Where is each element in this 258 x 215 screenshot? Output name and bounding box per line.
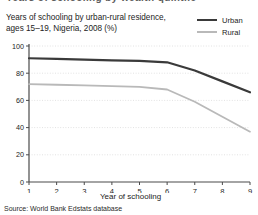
chart-title: Years of schooling by urban-rural reside… (6, 12, 176, 34)
x-axis-title: Year of schooling (100, 192, 161, 201)
series-line-rural (29, 84, 250, 132)
y-axis-tick-label: 100 (12, 42, 24, 51)
chart-legend: Urban Rural (174, 14, 252, 38)
legend-swatch-rural-icon (197, 31, 217, 33)
x-axis-tick-label: 9 (248, 187, 252, 193)
x-axis-tick-label: 3 (82, 187, 86, 193)
y-axis-ticks-group: 020406080100 (12, 42, 29, 187)
y-axis-tick-label: 80 (16, 69, 24, 78)
legend-label-urban: Urban (222, 16, 252, 25)
legend-label-rural: Rural (222, 28, 252, 37)
source-note: Source: World Bank Edstats database (4, 205, 122, 212)
chart-title-line-2: ages 15–19, Nigeria, 2008 (%) (6, 23, 176, 34)
x-axis-tick-label: 2 (55, 187, 59, 193)
chart-figure: Years of schooling by wealth quintile Ye… (0, 0, 258, 215)
chart-title-line-1: Years of schooling by urban-rural reside… (6, 12, 176, 23)
y-axis-tick-label: 20 (16, 150, 24, 159)
x-axis-tick-label: 6 (165, 187, 169, 193)
legend-item-urban: Urban (174, 14, 252, 26)
plot-area: 020406080100 123456789 (0, 38, 258, 193)
x-axis-tick-label: 8 (220, 187, 224, 193)
y-axis-tick-label: 40 (16, 123, 24, 132)
clipped-header-text: Years of schooling by wealth quintile (0, 0, 258, 9)
gridlines-group (29, 46, 250, 155)
y-axis-tick-label: 0 (20, 178, 24, 187)
data-series-group (29, 58, 250, 131)
x-axis-tick-label: 7 (193, 187, 197, 193)
legend-swatch-urban-icon (197, 19, 217, 22)
x-axis-tick-label: 1 (27, 187, 31, 193)
legend-item-rural: Rural (174, 26, 252, 38)
y-axis-tick-label: 60 (16, 96, 24, 105)
plot-svg: 020406080100 123456789 (0, 38, 258, 193)
